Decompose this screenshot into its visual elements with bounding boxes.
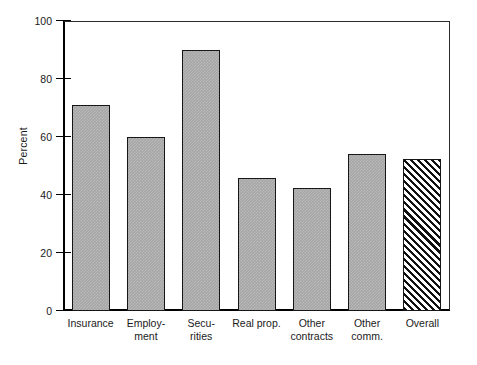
bar-employment — [127, 137, 165, 311]
bar-insurance — [72, 105, 110, 311]
x-axis-label-3: Secu-rities — [174, 317, 229, 343]
x-axis-label-line-2: contracts — [284, 330, 339, 343]
x-axis-label-4: Real prop. — [229, 317, 284, 330]
y-axis-title: Percent — [17, 106, 29, 186]
y-tick-label: 0 — [22, 306, 52, 316]
bar-other-comm — [348, 154, 386, 311]
x-axis-label-line-1: Insurance — [68, 317, 114, 329]
bar-overall — [403, 159, 441, 311]
y-tick-label: 60 — [22, 132, 52, 142]
bar-chart: Percent 020406080100 InsuranceEmploy-men… — [0, 0, 477, 365]
bar-real-prop — [238, 178, 276, 311]
x-axis-label-6: Othercomm. — [339, 317, 394, 343]
bar-securities — [182, 50, 220, 311]
x-axis-label-line-1: Real prop. — [232, 317, 280, 329]
bars-layer — [63, 21, 450, 311]
x-axis-label-line-2: comm. — [339, 330, 394, 343]
x-axis-label-line-2: ment — [118, 330, 173, 343]
x-axis-label-5: Othercontracts — [284, 317, 339, 343]
y-tick-label: 40 — [22, 190, 52, 200]
x-axis-label-2: Employ-ment — [118, 317, 173, 343]
x-axis-category-labels: InsuranceEmploy-mentSecu-ritiesReal prop… — [63, 317, 450, 363]
y-tick-label: 20 — [22, 248, 52, 258]
x-axis-label-line-1: Other — [299, 317, 325, 329]
x-axis-label-7: Overall — [395, 317, 450, 330]
y-tick-label: 100 — [22, 16, 52, 26]
y-tick-label: 80 — [22, 74, 52, 84]
x-axis-label-line-1: Secu- — [187, 317, 214, 329]
x-axis-label-line-1: Overall — [406, 317, 439, 329]
x-axis-label-1: Insurance — [63, 317, 118, 330]
x-axis-label-line-1: Other — [354, 317, 380, 329]
bar-other-contracts — [293, 188, 331, 311]
x-axis-label-line-1: Employ- — [127, 317, 166, 329]
x-axis-label-line-2: rities — [174, 330, 229, 343]
